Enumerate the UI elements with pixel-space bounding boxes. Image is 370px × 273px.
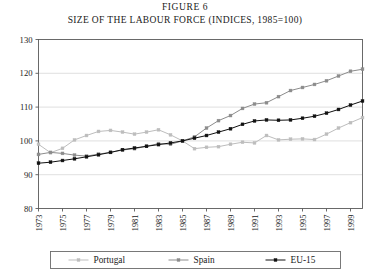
series-marker: [349, 121, 352, 124]
plot-frame: [39, 40, 363, 209]
line-chart: 8090100110120130 19731975197719791981198…: [0, 0, 370, 273]
series-marker: [325, 112, 328, 115]
series-marker: [265, 118, 268, 121]
x-tick-label-1999: 1999: [347, 215, 356, 232]
series-marker: [85, 155, 88, 158]
series-line: [39, 69, 363, 156]
legend-marker-swatch: [177, 259, 180, 262]
x-tick-label-1979: 1979: [107, 215, 116, 232]
series-marker: [241, 107, 244, 110]
series-marker: [337, 127, 340, 130]
series-marker: [61, 147, 64, 150]
data-series-group: [37, 68, 364, 165]
series-marker: [145, 131, 148, 134]
series-marker: [145, 145, 148, 148]
series-marker: [73, 154, 76, 157]
series-marker: [325, 79, 328, 82]
y-tick-label-110: 110: [20, 102, 33, 112]
series-marker: [229, 143, 232, 146]
series-marker: [205, 127, 208, 130]
series-marker: [349, 104, 352, 107]
legend-label: EU-15: [291, 255, 316, 265]
series-marker: [85, 134, 88, 137]
series-marker: [157, 143, 160, 146]
x-tick-label-1987: 1987: [203, 215, 212, 232]
chart-legend: PortugalSpainEU-15: [51, 252, 341, 269]
series-marker: [193, 147, 196, 150]
x-tick-label-1995: 1995: [299, 215, 308, 232]
series-marker: [37, 153, 40, 156]
y-axis-ticks: 8090100110120130: [20, 35, 39, 214]
x-tick-label-1973: 1973: [35, 215, 44, 232]
series-marker: [325, 133, 328, 136]
series-marker: [289, 118, 292, 121]
series-marker: [193, 137, 196, 140]
series-marker: [301, 137, 304, 140]
series-marker: [169, 141, 172, 144]
series-marker: [61, 159, 64, 162]
series-marker: [361, 116, 364, 119]
x-tick-label-1997: 1997: [323, 215, 332, 232]
series-marker: [253, 120, 256, 123]
series-marker: [181, 139, 184, 142]
series-marker: [337, 108, 340, 111]
x-tick-label-1991: 1991: [251, 215, 260, 232]
gridlines: [39, 73, 363, 174]
series-marker: [157, 128, 160, 131]
series-marker: [313, 83, 316, 86]
series-marker: [97, 153, 100, 156]
series-marker: [109, 129, 112, 132]
series-marker: [205, 134, 208, 137]
legend-label: Spain: [194, 255, 216, 265]
y-tick-label-90: 90: [24, 170, 33, 180]
series-marker: [229, 127, 232, 130]
series-marker: [289, 138, 292, 141]
series-marker: [253, 103, 256, 106]
series-marker: [205, 146, 208, 149]
x-tick-label-1983: 1983: [155, 215, 164, 232]
series-marker: [73, 138, 76, 141]
series-marker: [61, 152, 64, 155]
series-marker: [265, 101, 268, 104]
y-tick-label-100: 100: [20, 136, 33, 146]
series-marker: [133, 133, 136, 136]
legend-marker-swatch: [77, 259, 80, 262]
figure-container: FIGURE 6 SIZE OF THE LABOUR FORCE (INDIC…: [0, 0, 370, 273]
series-marker: [301, 86, 304, 89]
x-axis-ticks: 1973197519771979198119831985198719891991…: [35, 209, 356, 232]
plot-border: [39, 40, 363, 209]
y-tick-label-130: 130: [20, 35, 33, 45]
series-marker: [361, 68, 364, 71]
y-tick-label-80: 80: [24, 204, 33, 214]
x-tick-label-1981: 1981: [131, 215, 140, 232]
series-portugal: [37, 116, 364, 154]
series-marker: [121, 131, 124, 134]
series-marker: [277, 119, 280, 122]
series-marker: [121, 148, 124, 151]
series-marker: [49, 151, 52, 154]
series-marker: [337, 75, 340, 78]
series-marker: [313, 115, 316, 118]
y-tick-label-120: 120: [20, 68, 33, 78]
series-marker: [313, 138, 316, 141]
series-marker: [217, 145, 220, 148]
legend-label: Portugal: [94, 255, 126, 265]
x-tick-label-1975: 1975: [59, 215, 68, 232]
x-tick-label-1977: 1977: [83, 215, 92, 232]
series-marker: [73, 157, 76, 160]
series-marker: [289, 89, 292, 92]
series-marker: [241, 141, 244, 144]
series-marker: [349, 70, 352, 73]
x-tick-label-1989: 1989: [227, 215, 236, 232]
series-marker: [253, 141, 256, 144]
series-spain: [37, 68, 364, 158]
series-marker: [37, 143, 40, 146]
series-marker: [169, 133, 172, 136]
series-marker: [133, 147, 136, 150]
x-tick-label-1993: 1993: [275, 215, 284, 232]
series-marker: [361, 100, 364, 103]
series-marker: [277, 95, 280, 98]
series-marker: [37, 162, 40, 165]
series-marker: [277, 138, 280, 141]
chart-plot-area: 8090100110120130 19731975197719791981198…: [0, 0, 370, 273]
